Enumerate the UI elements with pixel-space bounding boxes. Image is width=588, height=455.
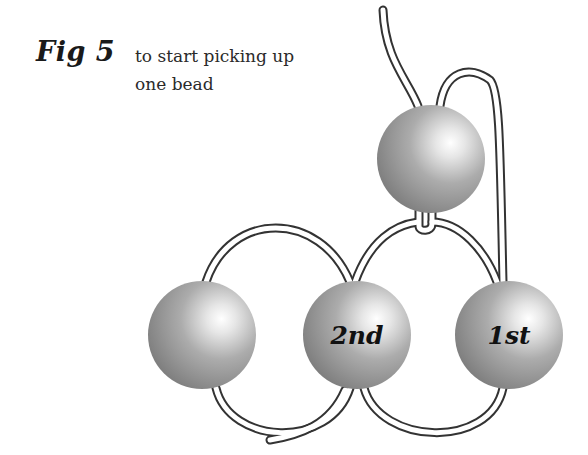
beading-diagram: 2nd 1st — [0, 0, 588, 455]
bead-left — [148, 281, 256, 389]
bead-second: 2nd — [303, 281, 411, 389]
bead-top — [377, 105, 485, 213]
bead-label-2nd: 2nd — [329, 321, 383, 350]
bead-first: 1st — [455, 281, 563, 389]
bead-label-1st: 1st — [487, 321, 530, 350]
